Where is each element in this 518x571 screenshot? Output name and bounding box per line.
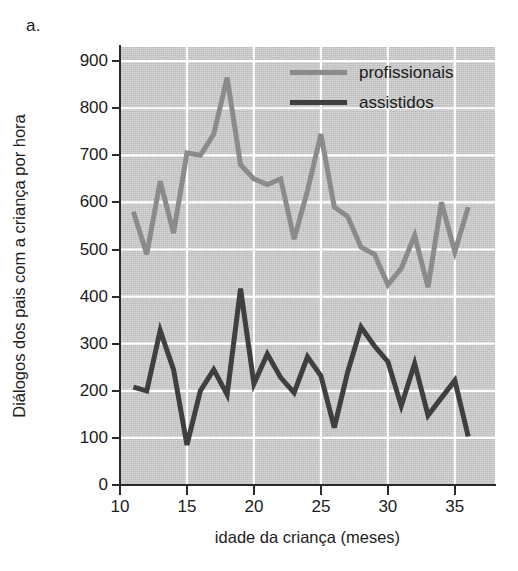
x-tick-label: 35 <box>445 497 464 517</box>
series-line-assistidos <box>133 289 468 445</box>
y-tick-label-text: 900 <box>80 51 108 71</box>
y-tick-label-text: 200 <box>80 381 108 401</box>
y-tick-mark <box>112 343 120 345</box>
legend-swatch-profissionais <box>290 70 347 75</box>
x-tick-mark <box>253 486 255 495</box>
x-tick-mark <box>454 486 456 495</box>
y-tick-mark <box>112 107 120 109</box>
legend-label-profissionais: profissionais <box>359 64 454 81</box>
y-axis-spine <box>119 45 121 486</box>
x-tick-mark <box>119 486 121 495</box>
y-tick-label-text: 500 <box>80 240 108 260</box>
x-tick-label: 25 <box>311 497 330 517</box>
x-tick-mark <box>320 486 322 495</box>
x-axis-title: idade da criança (meses) <box>120 528 495 547</box>
legend-item: profissionais <box>290 61 454 83</box>
x-axis-spine <box>119 484 496 486</box>
legend-swatch-assistidos <box>290 100 347 105</box>
y-tick-label-text: 600 <box>80 192 108 212</box>
y-tick-mark <box>112 390 120 392</box>
y-tick-mark <box>112 249 120 251</box>
y-tick-label-text: 400 <box>80 287 108 307</box>
y-tick-mark <box>112 296 120 298</box>
x-tick-mark <box>387 486 389 495</box>
x-tick-label: 10 <box>111 497 130 517</box>
legend-label-assistidos: assistidos <box>359 94 434 111</box>
y-tick-mark <box>112 437 120 439</box>
y-tick-mark <box>112 60 120 62</box>
panel-letter-label: a. <box>26 16 41 36</box>
y-axis-title: Diálogos dos pais com a criança por hora <box>10 114 29 418</box>
x-tick-label: 15 <box>177 497 196 517</box>
y-tick-label-text: 800 <box>80 98 108 118</box>
y-tick-label-text: 700 <box>80 145 108 165</box>
legend-item: assistidos <box>290 91 454 113</box>
y-tick-label-text: 0 <box>99 475 108 495</box>
y-tick-mark <box>112 201 120 203</box>
y-axis-title-container: Diálogos dos pais com a criança por hora <box>0 47 38 485</box>
x-tick-label: 20 <box>244 497 263 517</box>
chart-legend: profissionais assistidos <box>290 61 454 113</box>
y-tick-label-text: 300 <box>80 334 108 354</box>
y-tick-label-text: 100 <box>80 428 108 448</box>
figure-panel-a: a. Diálogos dos pais com a criança por h… <box>0 0 518 571</box>
x-tick-label: 30 <box>378 497 397 517</box>
x-tick-mark <box>186 486 188 495</box>
y-tick-mark <box>112 154 120 156</box>
